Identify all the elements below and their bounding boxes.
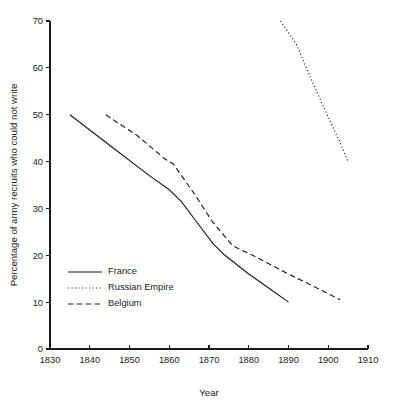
series-line-russian-empire	[281, 21, 349, 162]
y-axis: 010203040506070	[33, 16, 50, 354]
y-axis-tick-label: 50	[33, 110, 43, 120]
y-axis-tick-label: 60	[33, 63, 43, 73]
chart-legend: FranceRussian EmpireBelgium	[68, 266, 174, 308]
y-axis-tick-label: 30	[33, 204, 43, 214]
y-axis-title: Percentage of army recruits who could no…	[8, 84, 19, 287]
x-axis-title: Year	[199, 387, 219, 398]
line-chart: 010203040506070 183018401850186018701880…	[0, 0, 401, 405]
x-axis-tick-label: 1910	[358, 355, 379, 365]
x-axis-tick-label: 1870	[199, 355, 220, 365]
chart-container: 010203040506070 183018401850186018701880…	[0, 0, 401, 405]
series-line-france	[70, 115, 289, 302]
legend-label-russian-empire: Russian Empire	[108, 282, 174, 292]
y-axis-tick-label: 70	[33, 16, 43, 26]
x-axis-tick-label: 1860	[159, 355, 180, 365]
y-axis-tick-label: 40	[33, 157, 43, 167]
legend-label-belgium: Belgium	[108, 298, 142, 308]
x-axis-tick-label: 1840	[79, 355, 100, 365]
x-axis-tick-label: 1890	[278, 355, 299, 365]
y-axis-tick-label: 20	[33, 251, 43, 261]
y-axis-tick-label: 0	[38, 344, 43, 354]
data-series-group	[70, 21, 348, 302]
legend-label-france: France	[108, 266, 137, 276]
x-axis-tick-label: 1880	[238, 355, 259, 365]
x-axis: 183018401850186018701880189019001910	[40, 345, 379, 365]
x-axis-tick-label: 1850	[119, 355, 140, 365]
x-axis-tick-label: 1900	[318, 355, 339, 365]
y-axis-tick-label: 10	[33, 298, 43, 308]
series-line-belgium	[106, 115, 341, 300]
x-axis-tick-label: 1830	[40, 355, 61, 365]
